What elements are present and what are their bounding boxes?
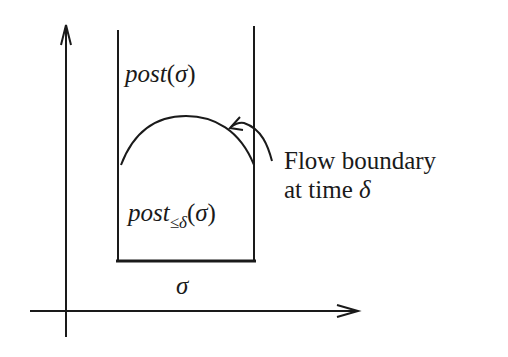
x-axis [30, 305, 358, 317]
paren-close: ) [187, 60, 195, 87]
paren-open: ( [187, 199, 195, 226]
sigma-arg: σ [195, 199, 207, 226]
paren-open: ( [167, 60, 175, 87]
y-axis [61, 25, 71, 337]
annotation-line-1: Flow boundary [284, 146, 436, 175]
annotation-text: at time [284, 176, 359, 203]
sigma-arg: σ [175, 60, 187, 87]
annotation-line-2: at time δ [284, 175, 436, 204]
delta-symbol: δ [359, 176, 371, 203]
paren-close: ) [208, 199, 216, 226]
post-le-delta-label: post≤δ(σ) [128, 199, 216, 233]
le-delta-subscript: ≤δ [170, 213, 187, 232]
post-fn: post [128, 199, 170, 226]
post-sigma-label: post(σ) [125, 60, 196, 88]
sigma-label: σ [176, 272, 188, 300]
post-fn: post [125, 60, 167, 87]
flow-boundary-annotation: Flow boundary at time δ [284, 146, 436, 204]
